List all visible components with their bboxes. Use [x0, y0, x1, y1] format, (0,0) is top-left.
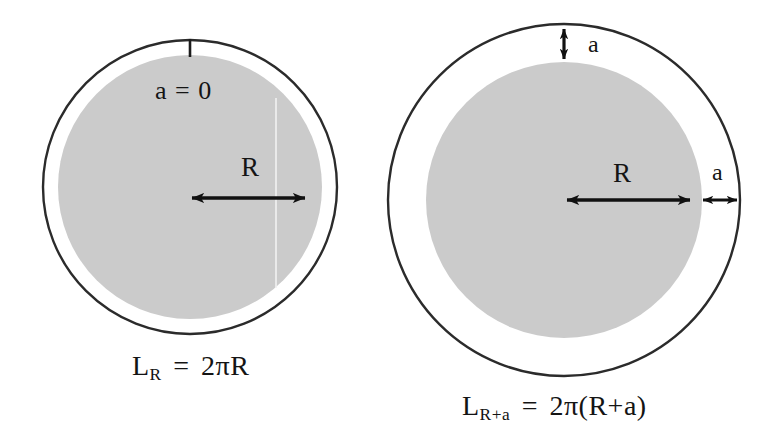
left-formula-base: L: [132, 350, 150, 381]
right-formula-subscript: R+a: [480, 405, 511, 424]
left-formula-equals: =: [173, 350, 189, 381]
left-gap-label: a = 0: [155, 78, 212, 104]
left-formula-rhs: 2πR: [201, 350, 249, 381]
right-formula-rhs: 2π(R+a): [549, 390, 646, 421]
right-formula-base: L: [462, 390, 480, 421]
left-formula-subscript: R: [150, 365, 162, 384]
left-radius-label: R: [241, 154, 259, 181]
left-circumference-formula: LR = 2πR: [132, 352, 249, 380]
right-panel-graphics: [388, 24, 740, 376]
figure-canvas: [0, 0, 777, 440]
right-radius-label: R: [613, 160, 631, 187]
right-circumference-formula: LR+a = 2π(R+a): [462, 392, 647, 420]
figure-container: a = 0 R LR = 2πR a R a LR+a = 2π(R+a): [0, 0, 777, 440]
right-formula-equals: =: [522, 390, 538, 421]
right-gap-label-right: a: [712, 160, 723, 184]
right-gap-label-top: a: [588, 32, 599, 56]
